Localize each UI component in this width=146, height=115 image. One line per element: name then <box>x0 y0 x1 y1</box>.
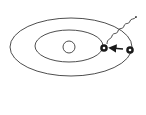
transition-arrow-icon <box>111 48 123 49</box>
electron-inner <box>100 44 108 52</box>
electron-outer <box>126 46 134 54</box>
bohr-atom-diagram: Bohr atom model: electron transition wit… <box>0 0 146 115</box>
nucleus <box>63 41 75 53</box>
photon-tip <box>135 16 137 18</box>
diagram-canvas <box>0 0 146 115</box>
